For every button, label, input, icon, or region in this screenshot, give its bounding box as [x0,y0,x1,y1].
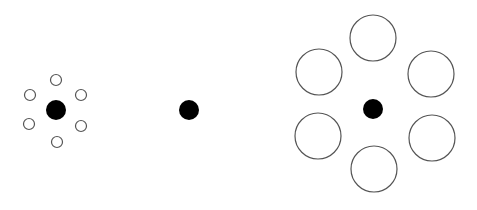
surround-circle [76,121,87,132]
surround-circle [76,90,87,101]
center-dot [363,99,383,119]
surround-circle [350,15,396,61]
surround-circle [52,137,63,148]
surround-circle [51,75,62,86]
diagram-svg [0,0,477,210]
surround-circle [24,119,35,130]
surround-circle [25,90,36,101]
surround-circle [295,113,341,159]
surround-circle [351,146,397,192]
ebbinghaus-diagram [0,0,477,210]
surround-circle [296,49,342,95]
surround-circle [408,51,454,97]
center-dot [179,100,199,120]
large-surround-group [295,15,455,192]
isolated-group [179,100,199,120]
surround-circle [409,115,455,161]
center-dot [46,100,66,120]
small-surround-group [24,75,87,148]
